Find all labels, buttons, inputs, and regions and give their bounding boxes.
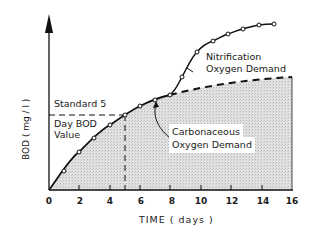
x-tick-0: 0 (46, 196, 52, 206)
x-axis-label: TIME ( days ) (139, 214, 214, 225)
carbonaceous-label-line1: Carbonaceous (169, 124, 243, 137)
x-tick-4: 4 (107, 196, 113, 206)
nitrification-label-line1: Nitrification (206, 51, 261, 62)
standard-label-line3: Value (54, 129, 80, 140)
x-tick-16: 16 (286, 196, 299, 206)
x-tick-8: 8 (169, 196, 175, 206)
nitrification-leader (187, 68, 193, 72)
x-tick-2: 2 (77, 196, 83, 206)
carbonaceous-label-line2: Oxygen Demand (169, 137, 255, 153)
x-tick-14: 14 (257, 196, 270, 206)
x-tick-6: 6 (138, 196, 144, 206)
x-tick-10: 10 (195, 196, 208, 206)
standard-label-line1: Standard 5 (54, 98, 106, 109)
x-tick-12: 12 (226, 196, 239, 206)
standard-label-line2: Day BOD (54, 118, 97, 129)
y-axis-arrow-icon (45, 14, 53, 33)
nitrification-label-line2: Oxygen Demand (206, 63, 286, 74)
y-axis-label: BOD ( mg / l ) (21, 100, 31, 160)
